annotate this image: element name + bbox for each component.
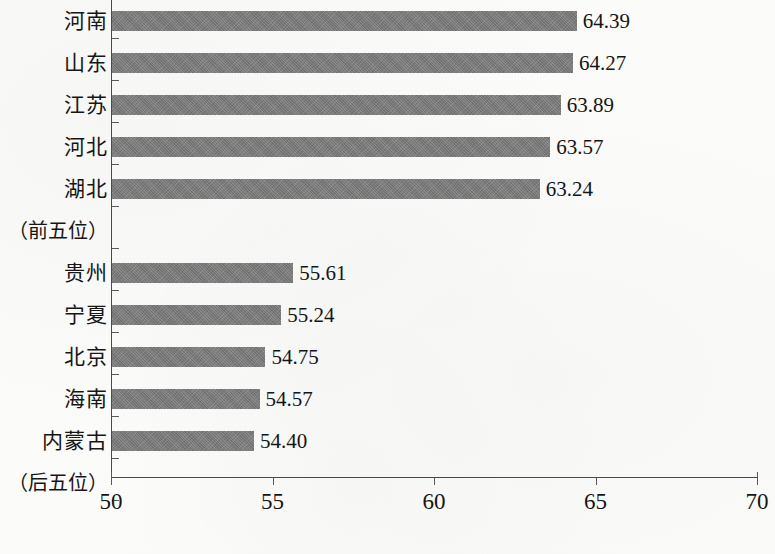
bar-value-label: 54.40 — [260, 430, 307, 452]
bar-value-label: 63.89 — [567, 94, 614, 116]
category-label: 内蒙古 — [42, 420, 108, 462]
category-label: 北京 — [64, 336, 108, 378]
bar-value-label: 55.61 — [299, 262, 346, 284]
chart-group-row: （前五位） — [0, 210, 775, 252]
bar-value-label: 64.27 — [579, 52, 626, 74]
bar-value-label: 54.57 — [266, 388, 313, 410]
category-label: 宁夏 — [64, 294, 108, 336]
chart-row: 北京54.75 — [0, 336, 775, 378]
group-label: （前五位） — [8, 210, 108, 252]
bar — [112, 431, 254, 451]
chart-row: 湖北63.24 — [0, 168, 775, 210]
bar-chart: 河南64.39山东64.27江苏63.89河北63.57湖北63.24（前五位）… — [0, 0, 775, 554]
category-label: 河北 — [64, 126, 108, 168]
bar — [112, 263, 293, 283]
bar-value-label: 55.24 — [287, 304, 334, 326]
bar — [112, 389, 260, 409]
bar — [112, 137, 550, 157]
chart-row: 贵州55.61 — [0, 252, 775, 294]
bar — [112, 53, 573, 73]
x-axis-tick-label: 50 — [81, 489, 141, 515]
x-axis-tick-label: 60 — [404, 489, 464, 515]
figure-caption-clip: 图 5-2 我国主要器官捐献率最高和最低的省区（模拟） — [0, 538, 775, 554]
bar-value-label: 54.75 — [271, 346, 318, 368]
category-label: 海南 — [64, 378, 108, 420]
x-axis-tick-label: 70 — [727, 489, 775, 515]
chart-row: 内蒙古54.40 — [0, 420, 775, 462]
chart-row: 海南54.57 — [0, 378, 775, 420]
bar — [112, 179, 540, 199]
bar-value-label: 63.57 — [556, 136, 603, 158]
chart-row: 宁夏55.24 — [0, 294, 775, 336]
category-label: 江苏 — [64, 84, 108, 126]
bar-value-label: 63.24 — [546, 178, 593, 200]
chart-row: 河北63.57 — [0, 126, 775, 168]
bar-value-label: 64.39 — [583, 10, 630, 32]
category-label: 山东 — [64, 42, 108, 84]
x-axis-tick-label: 65 — [566, 489, 626, 515]
chart-row: 江苏63.89 — [0, 84, 775, 126]
category-label: 河南 — [64, 0, 108, 42]
bar — [112, 347, 265, 367]
category-label: 湖北 — [64, 168, 108, 210]
chart-row: 河南64.39 — [0, 0, 775, 42]
x-axis-tick-label: 55 — [243, 489, 303, 515]
category-label: 贵州 — [64, 252, 108, 294]
chart-row: 山东64.27 — [0, 42, 775, 84]
bar — [112, 305, 281, 325]
bar — [112, 11, 577, 31]
bar — [112, 95, 561, 115]
